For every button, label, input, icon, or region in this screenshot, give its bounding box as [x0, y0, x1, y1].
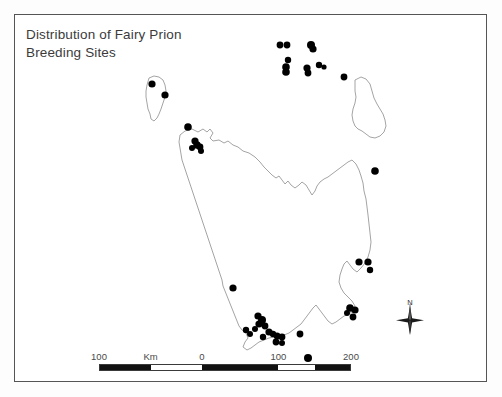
breeding-sites-layer: [148, 41, 378, 362]
coastline-flinders-island: [352, 77, 386, 138]
breeding-site-marker: [371, 167, 379, 175]
north-arrow-label: N: [407, 298, 412, 307]
scale-bar-label: Km: [144, 351, 158, 362]
breeding-site-marker: [161, 91, 168, 98]
breeding-site-marker: [277, 42, 284, 49]
breeding-site-marker: [367, 267, 373, 273]
breeding-site-marker: [279, 340, 285, 346]
breeding-site-marker: [279, 334, 286, 341]
breeding-site-marker: [341, 74, 348, 81]
breeding-site-marker: [184, 123, 192, 131]
scale-bar-segment: [315, 365, 350, 370]
breeding-site-marker: [355, 258, 362, 265]
scale-bar-track: [99, 364, 351, 371]
breeding-site-marker: [148, 80, 155, 87]
coastline-tasmania-mainland: [179, 129, 371, 350]
breeding-site-marker: [198, 148, 204, 154]
breeding-site-marker: [229, 284, 236, 291]
breeding-site-marker: [189, 145, 195, 151]
north-arrow: N: [388, 298, 432, 342]
breeding-site-marker: [321, 64, 326, 69]
breeding-site-marker: [364, 258, 371, 265]
breeding-site-marker: [247, 331, 253, 337]
scale-bar-segment: [202, 365, 278, 370]
breeding-site-marker: [351, 306, 358, 313]
breeding-site-marker: [285, 57, 291, 63]
breeding-site-marker: [305, 70, 312, 77]
scale-bar-label: 0: [199, 351, 204, 362]
breeding-site-marker: [350, 314, 357, 321]
breeding-site-marker: [282, 68, 290, 76]
breeding-site-marker: [252, 326, 258, 332]
breeding-site-marker: [309, 45, 316, 52]
scale-bar-label: 200: [343, 351, 359, 362]
scale-bar: 100Km0100200: [99, 351, 351, 377]
scale-bar-label: 100: [270, 351, 286, 362]
breeding-site-marker: [344, 310, 350, 316]
scale-bar-label: 100: [91, 351, 107, 362]
breeding-site-marker: [284, 42, 291, 49]
breeding-site-marker: [297, 331, 304, 338]
breeding-site-marker: [316, 62, 322, 68]
fairy-prion-distribution-map: Distribution of Fairy Prion Breeding Sit…: [0, 0, 502, 397]
breeding-site-marker: [262, 323, 269, 330]
breeding-site-marker: [260, 334, 266, 340]
scale-bar-segment: [100, 365, 151, 370]
breeding-site-marker: [273, 339, 280, 346]
